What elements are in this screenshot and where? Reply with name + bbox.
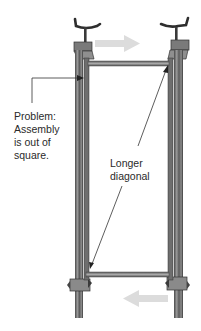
diagonal-line-2: diagonal — [110, 170, 150, 183]
problem-line-4: square. — [14, 149, 60, 162]
problem-line-2: Assembly — [14, 123, 60, 136]
problem-line-3: is out of — [14, 136, 60, 149]
diagonal-annotation: Longer diagonal — [110, 157, 150, 183]
bottom-push-arrow-icon — [123, 290, 168, 307]
clamp-frame-illustration — [0, 0, 201, 331]
problem-line-1: Problem: — [14, 110, 60, 123]
problem-annotation: Problem: Assembly is out of square. — [14, 110, 60, 162]
top-push-arrow-icon — [95, 35, 140, 52]
diagonal-line-1: Longer — [110, 157, 150, 170]
